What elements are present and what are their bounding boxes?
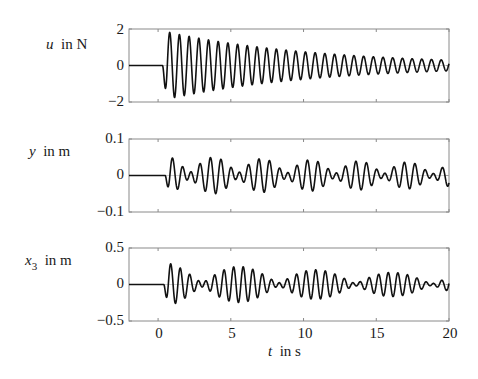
plot-area (0, 0, 478, 379)
signal-line-u (129, 32, 449, 97)
signal-line-x3 (129, 264, 449, 304)
